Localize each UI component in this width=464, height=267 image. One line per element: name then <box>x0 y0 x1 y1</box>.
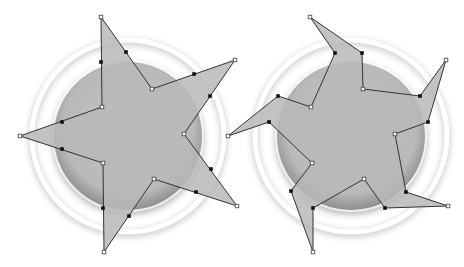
anchor-point-open[interactable] <box>444 58 448 62</box>
anchor-point-solid[interactable] <box>404 190 408 194</box>
anchor-point-solid[interactable] <box>383 206 387 210</box>
anchor-point-open[interactable] <box>311 250 315 254</box>
anchor-point-open[interactable] <box>446 204 450 208</box>
anchor-point-open[interactable] <box>393 132 397 136</box>
anchor-point-open[interactable] <box>235 204 239 208</box>
star-original-figure <box>18 15 239 254</box>
anchor-point-solid[interactable] <box>311 206 315 210</box>
anchor-point-solid[interactable] <box>418 94 422 98</box>
anchor-point-solid[interactable] <box>333 51 337 55</box>
anchor-point-solid[interactable] <box>267 120 271 124</box>
anchor-point-open[interactable] <box>150 87 154 91</box>
anchor-point-open[interactable] <box>182 132 186 136</box>
anchor-point-solid[interactable] <box>209 167 213 171</box>
diagram-canvas <box>0 0 464 267</box>
anchor-point-open[interactable] <box>99 15 103 19</box>
anchor-point-open[interactable] <box>361 87 365 91</box>
anchor-point-solid[interactable] <box>360 51 364 55</box>
anchor-point-open[interactable] <box>102 250 106 254</box>
anchor-point-solid[interactable] <box>101 206 105 210</box>
anchor-point-solid[interactable] <box>60 120 64 124</box>
anchor-point-solid[interactable] <box>60 147 64 151</box>
anchor-point-solid[interactable] <box>289 189 293 193</box>
anchor-point-open[interactable] <box>226 134 230 138</box>
anchor-point-open[interactable] <box>308 15 312 19</box>
anchor-point-solid[interactable] <box>124 50 128 54</box>
anchor-point-open[interactable] <box>309 105 313 109</box>
anchor-point-open[interactable] <box>100 105 104 109</box>
anchor-point-open[interactable] <box>101 161 105 165</box>
anchor-point-solid[interactable] <box>99 60 103 64</box>
anchor-point-open[interactable] <box>310 161 314 165</box>
anchor-point-open[interactable] <box>18 134 22 138</box>
anchor-point-open[interactable] <box>152 177 156 181</box>
anchor-point-solid[interactable] <box>127 214 131 218</box>
anchor-point-solid[interactable] <box>194 190 198 194</box>
anchor-point-solid[interactable] <box>208 94 212 98</box>
anchor-point-open[interactable] <box>233 58 237 62</box>
star-twisted-figure <box>226 15 450 254</box>
anchor-point-solid[interactable] <box>426 120 430 124</box>
anchor-point-solid[interactable] <box>276 94 280 98</box>
anchor-point-solid[interactable] <box>192 72 196 76</box>
anchor-point-open[interactable] <box>362 177 366 181</box>
